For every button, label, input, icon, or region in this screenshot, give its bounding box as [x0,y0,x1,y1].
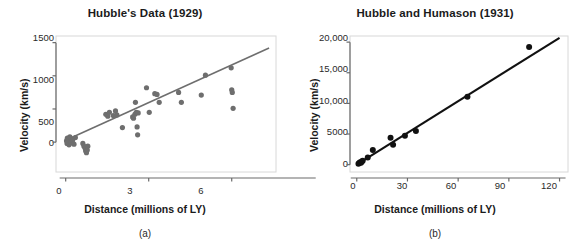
data-point [365,155,371,161]
data-point [413,128,419,134]
plot-frame [350,36,568,172]
data-point [147,110,152,115]
data-point [179,100,184,105]
data-point [176,90,181,95]
data-point [199,92,204,97]
data-point [230,90,235,95]
panel-a-plot-area [0,0,290,245]
data-point [135,132,140,137]
data-point [203,73,208,78]
data-point [526,44,532,50]
data-point [144,85,149,90]
trend-line [357,38,560,165]
data-point [229,65,234,70]
panel-b-plot-area [290,0,580,245]
panel-a: Hubble's Data (1929) Velocity (km/s) Dis… [0,0,290,245]
data-point [120,125,125,130]
data-point [390,142,396,148]
data-point [134,124,139,129]
data-point [370,147,376,153]
data-point [114,112,119,117]
data-point [231,106,236,111]
data-point [157,100,162,105]
data-point [154,92,159,97]
data-point [388,135,394,141]
data-point [136,110,141,115]
data-point [360,158,366,164]
data-point [464,94,470,100]
data-point [71,142,76,147]
trend-line [66,48,269,140]
data-point [85,144,90,149]
hubble-figure: Hubble's Data (1929) Velocity (km/s) Dis… [0,0,580,245]
data-point [402,133,408,139]
panel-b: Hubble and Humason (1931) Velocity (km/s… [290,0,580,245]
data-point [133,100,138,105]
data-point [73,135,78,140]
